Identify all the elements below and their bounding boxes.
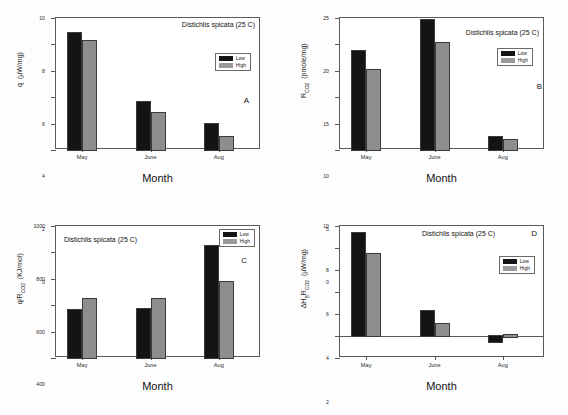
bar-a-aug-low bbox=[205, 124, 218, 150]
panel-d-y-tick: 2 bbox=[335, 314, 340, 315]
panel-b-y-tick-label: 10 bbox=[323, 175, 329, 180]
bar-a-june-low bbox=[137, 102, 150, 150]
panel-c-x-tick-label: May bbox=[77, 362, 88, 368]
bar-b-may-high bbox=[367, 70, 380, 150]
panel-c-letter: C bbox=[241, 256, 247, 265]
bar-d-aug-low bbox=[489, 336, 502, 342]
panel-c-y-tick: 0 bbox=[51, 358, 56, 359]
panel-b-y-tick: 25 bbox=[335, 18, 340, 19]
bar-b-aug-high bbox=[504, 140, 517, 150]
panel-c-y-tick: 400 bbox=[51, 305, 56, 306]
panel-d-x-tick bbox=[503, 356, 504, 360]
panel-b-plot-area: MayJuneAug bbox=[340, 18, 543, 148]
panel-c-y-tick-label: 600 bbox=[36, 330, 45, 335]
bar-c-may-high bbox=[83, 299, 96, 358]
legend-swatch-high bbox=[219, 63, 233, 68]
panel-b-x-tick-label: June bbox=[428, 154, 440, 160]
panel-c-y-tick: 800 bbox=[51, 252, 56, 253]
panel-d-y-tick: 6 bbox=[335, 270, 340, 271]
panel-d-legend: Low High bbox=[499, 256, 535, 274]
panel-a-y-tick: 8 bbox=[51, 44, 56, 45]
panel-d-y-tick-label: 8 bbox=[326, 268, 329, 273]
legend-swatch-high bbox=[503, 266, 517, 271]
panel-c-x-axis-title: Month bbox=[55, 380, 260, 392]
legend-label-high: High bbox=[236, 63, 246, 68]
bar-b-aug-low bbox=[489, 137, 502, 150]
panel-d-y-tick: 8 bbox=[335, 248, 340, 249]
panel-b-y-tick-label: 20 bbox=[323, 69, 329, 74]
legend-label-high: High bbox=[520, 266, 530, 271]
panel-d-x-tick-label: Aug bbox=[498, 362, 508, 368]
panel-d-y-tick: 10 bbox=[335, 226, 340, 227]
legend-row-low: Low bbox=[223, 232, 250, 237]
panel-a-plot-area: MayJuneAug bbox=[56, 18, 259, 148]
panel-d-x-tick bbox=[366, 356, 367, 360]
panel-a-y-tick: 2 bbox=[51, 124, 56, 125]
panel-d-y-tick-label: 2 bbox=[326, 400, 329, 405]
legend-swatch-low bbox=[219, 56, 233, 61]
legend-label-low: Low bbox=[518, 51, 527, 56]
bar-d-aug-high bbox=[504, 335, 517, 337]
panel-c-y-tick: 600 bbox=[51, 279, 56, 280]
panel-d-x-axis-title: Month bbox=[339, 380, 544, 392]
panel-a-y-tick-label: 8 bbox=[42, 69, 45, 74]
panel-b-y-axis-title: RCO2 (pmole/mg) bbox=[300, 16, 309, 126]
panel-c-y-tick-label: 1000 bbox=[33, 224, 45, 229]
panel-d-x-tick-label: June bbox=[428, 362, 440, 368]
legend-swatch-high bbox=[501, 58, 515, 63]
bar-c-aug-low bbox=[205, 246, 218, 358]
panel-d-plot-area: MayJuneAug bbox=[340, 226, 543, 356]
panel-a-y-axis-title: q (µW/mg) bbox=[16, 15, 23, 125]
panel-a-x-tick-label: June bbox=[144, 154, 156, 160]
bar-c-june-low bbox=[137, 309, 150, 358]
legend-label-high: High bbox=[240, 239, 250, 244]
panel-c-legend: Low High bbox=[219, 229, 255, 247]
panel-c-x-tick-label: Aug bbox=[214, 362, 224, 368]
legend-label-high: High bbox=[518, 58, 528, 63]
bar-b-may-low bbox=[352, 51, 365, 150]
bar-d-may-high bbox=[367, 254, 380, 337]
panel-a-x-axis-title: Month bbox=[55, 172, 260, 184]
panel-c: q/RCO2 (KJ/mol) MayJuneAug Distichlis sp… bbox=[0, 208, 284, 415]
panel-a-letter: A bbox=[244, 96, 249, 105]
legend-label-low: Low bbox=[240, 232, 249, 237]
figure-four-panel-bar-charts: q (µW/mg) MayJuneAug Distichlis spicata … bbox=[0, 0, 568, 415]
legend-row-high: High bbox=[501, 58, 528, 63]
panel-b-x-tick-label: May bbox=[361, 154, 372, 160]
legend-row-low: Low bbox=[503, 259, 530, 264]
panel-d-y-tick-label: 6 bbox=[326, 312, 329, 317]
legend-label-low: Low bbox=[236, 56, 245, 61]
panel-c-y-tick: 200 bbox=[51, 332, 56, 333]
panel-a: q (µW/mg) MayJuneAug Distichlis spicata … bbox=[0, 0, 284, 207]
panel-a-y-tick: 4 bbox=[51, 97, 56, 98]
panel-b-y-tick: 10 bbox=[335, 97, 340, 98]
panel-d-x-tick-label: May bbox=[361, 362, 372, 368]
panel-b-species-label: Distichlis spicata (25 C) bbox=[466, 29, 539, 36]
bar-b-june-high bbox=[436, 43, 449, 150]
legend-swatch-low bbox=[501, 51, 515, 56]
panel-c-species-label: Distichlis spicata (25 C) bbox=[64, 236, 137, 243]
panel-a-x-tick-label: Aug bbox=[214, 154, 224, 160]
legend-row-low: Low bbox=[501, 51, 528, 56]
legend-swatch-low bbox=[223, 232, 237, 237]
panel-b-x-axis-title: Month bbox=[339, 172, 544, 184]
panel-a-legend: Low High bbox=[215, 53, 251, 71]
panel-d-y-tick-label: 4 bbox=[326, 356, 329, 361]
legend-swatch-high bbox=[223, 239, 237, 244]
panel-b: RCO2 (pmole/mg) MayJuneAug Distichlis sp… bbox=[284, 0, 568, 207]
panel-a-x-tick-label: May bbox=[77, 154, 88, 160]
panel-d: ΔHBRCO2 (µW/mg) MayJuneAug Distichlis sp… bbox=[284, 208, 568, 415]
panel-d-y-tick: -2 bbox=[335, 358, 340, 359]
panel-d-y-tick-label: 10 bbox=[323, 224, 329, 229]
bar-a-aug-high bbox=[220, 137, 233, 150]
legend-swatch-low bbox=[503, 259, 517, 264]
panel-b-letter: B bbox=[537, 82, 542, 91]
bar-a-may-low bbox=[68, 33, 81, 150]
panel-c-y-tick: 1000 bbox=[51, 226, 56, 227]
panel-d-species-label: Distichlis spicata (25 C) bbox=[422, 230, 495, 237]
legend-row-high: High bbox=[223, 239, 250, 244]
panel-a-y-tick-label: 6 bbox=[42, 122, 45, 127]
bar-d-june-high bbox=[436, 324, 449, 336]
panel-b-y-tick: 5 bbox=[335, 124, 340, 125]
legend-row-low: Low bbox=[219, 56, 246, 61]
